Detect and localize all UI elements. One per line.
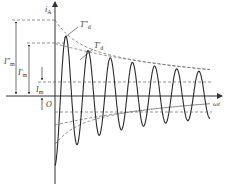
current-waveform	[55, 36, 210, 165]
envelope-transient-lower	[55, 104, 210, 125]
y-axis-label: iA	[45, 5, 52, 15]
label-transient-time-constant: T′d	[94, 41, 103, 51]
x-axis-label: ωt	[213, 100, 221, 108]
label-subtransient-amplitude: I″m	[3, 57, 15, 67]
label-subtransient-time-constant: T″d	[80, 20, 91, 30]
label-steady-amplitude: Im	[35, 85, 44, 95]
origin-label: O	[46, 100, 52, 109]
leader-subtransient	[64, 27, 78, 38]
short-circuit-diagram: iA ωt O T″d T′d I″m I′m Im	[0, 0, 229, 184]
envelope-transient-upper	[55, 44, 210, 70]
envelope-subtransient-lower	[55, 104, 210, 145]
label-transient-amplitude: I′m	[17, 68, 27, 78]
